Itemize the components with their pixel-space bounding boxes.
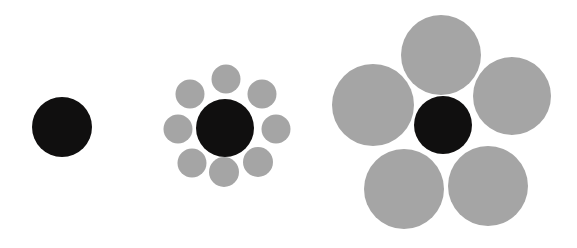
inducer-circle-small [262,115,291,144]
inducer-circle-large [332,64,414,146]
target-circle-left [32,97,92,157]
inducer-circle-large [473,57,551,135]
inducer-circle-small [164,115,193,144]
inducer-circle-small [212,65,241,94]
illusion-canvas [0,0,577,248]
inducer-circle-small [176,80,205,109]
inducer-circle-small [178,149,207,178]
target-circle-right [414,96,472,154]
inducer-circle-small [248,80,277,109]
ebbinghaus-illusion-figure [0,0,577,248]
inducer-circle-small [209,157,239,187]
target-circle-middle [196,99,254,157]
inducer-circle-small [243,147,273,177]
inducer-circle-large [364,149,444,229]
inducer-circle-large [448,146,528,226]
inducer-circle-large [401,15,481,95]
